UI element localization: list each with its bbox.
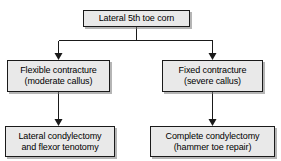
node-complete-condylectomy-line2: (hammer toe repair) [174,142,252,153]
flowchart-canvas: Lateral 5th toe corn Flexible contractur… [0,0,281,161]
node-complete-condylectomy-line1: Complete condylectomy [166,131,260,142]
node-complete-condylectomy: Complete condylectomy (hammer toe repair… [150,126,275,157]
node-lateral-condylectomy-line2: and flexor tenotomy [21,142,98,153]
node-lateral-5th-toe-corn-line1: Lateral 5th toe corn [99,13,175,24]
node-fixed-contracture-line2: (severe callus) [184,76,241,87]
node-flexible-contracture-line2: (moderate callus) [25,76,93,87]
arrowhead-to-complete [209,119,217,126]
node-lateral-5th-toe-corn: Lateral 5th toe corn [83,10,190,27]
arrowhead-to-lateral [55,119,63,126]
node-fixed-contracture-line1: Fixed contracture [179,65,247,76]
node-lateral-condylectomy-line1: Lateral condylectomy [18,131,101,142]
node-fixed-contracture: Fixed contracture (severe callus) [162,60,263,92]
node-flexible-contracture-line1: Flexible contracture [20,65,97,76]
arrowhead-to-flexible [55,53,63,60]
node-lateral-condylectomy: Lateral condylectomy and flexor tenotomy [5,126,115,157]
arrowhead-to-fixed [209,53,217,60]
node-flexible-contracture: Flexible contracture (moderate callus) [7,60,110,92]
